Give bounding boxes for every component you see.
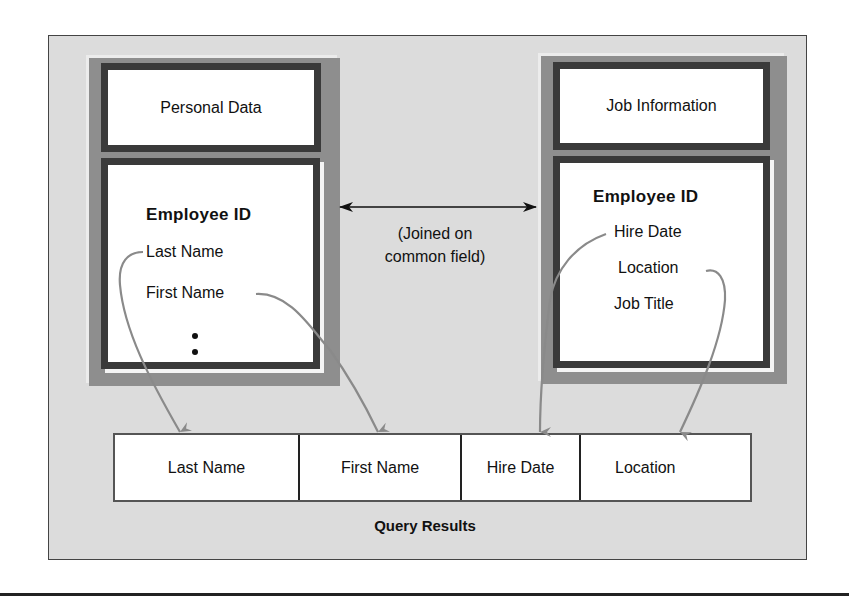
result-column-first-name: First Name <box>300 435 462 500</box>
job-information-key-field: Employee ID <box>593 187 698 207</box>
personal-data-key-field: Employee ID <box>146 205 251 225</box>
result-column-label: Hire Date <box>487 459 555 477</box>
join-description: (Joined on common field) <box>360 222 510 268</box>
job-information-title-text: Job Information <box>606 97 716 115</box>
job-information-field-hire-date: Hire Date <box>614 223 682 241</box>
query-results-label: Query Results <box>300 517 550 534</box>
personal-data-fields <box>101 158 320 369</box>
join-description-line1: (Joined on <box>360 222 510 245</box>
result-column-label: Location <box>615 459 676 477</box>
result-column-label: First Name <box>341 459 419 477</box>
result-column-hire-date: Hire Date <box>462 435 581 500</box>
result-column-label: Last Name <box>168 459 245 477</box>
result-column-last-name: Last Name <box>115 435 300 500</box>
ellipsis-vertical-icon <box>192 333 198 365</box>
query-results-table: Last Name First Name Hire Date Location <box>113 433 752 502</box>
job-information-title: Job Information <box>553 62 770 150</box>
personal-data-field-first-name: First Name <box>146 284 224 302</box>
job-information-field-job-title: Job Title <box>614 295 674 313</box>
join-description-line2: common field) <box>360 245 510 268</box>
personal-data-field-last-name: Last Name <box>146 243 223 261</box>
personal-data-title-text: Personal Data <box>160 99 261 117</box>
result-column-location: Location <box>581 435 750 500</box>
bottom-divider <box>0 593 849 596</box>
job-information-field-location: Location <box>618 259 679 277</box>
personal-data-title: Personal Data <box>101 63 321 152</box>
